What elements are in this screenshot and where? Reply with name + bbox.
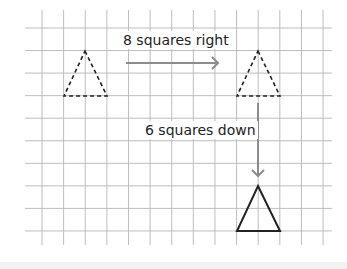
label-squares-down: 6 squares down bbox=[143, 121, 258, 139]
original-triangle-dashed bbox=[64, 51, 107, 96]
bottom-band bbox=[0, 262, 347, 269]
final-triangle-solid bbox=[237, 186, 280, 231]
intermediate-triangle-dashed bbox=[237, 51, 280, 96]
translation-diagram: 8 squares right 6 squares down bbox=[0, 0, 347, 269]
arrow-right-icon bbox=[126, 57, 218, 69]
arrow-down-icon bbox=[252, 103, 264, 176]
label-squares-right: 8 squares right bbox=[121, 31, 231, 49]
